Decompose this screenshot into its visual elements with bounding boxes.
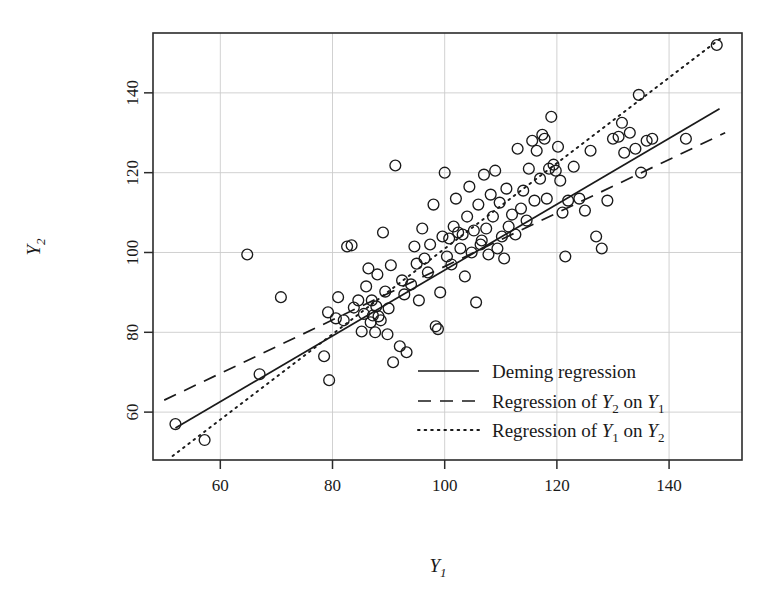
x-tick-label: 60 [212, 476, 229, 495]
data-point-circle [617, 117, 628, 128]
y-axis-title: Y2 [23, 238, 48, 256]
data-point-circle [485, 189, 496, 200]
data-point-circle [361, 281, 372, 292]
y-axis: 6080100120140 [124, 80, 154, 421]
data-point-circle [394, 341, 405, 352]
data-point-circle [435, 287, 446, 298]
scatter-plot-figure: 60801001201406080100120140Y1Y2Deming reg… [0, 0, 776, 604]
data-point-circle [471, 297, 482, 308]
legend: Deming regressionRegression of Y2 on Y1R… [418, 361, 664, 445]
data-point-circle [619, 147, 630, 158]
data-point-circle [413, 295, 424, 306]
data-point-circle [323, 307, 334, 318]
data-point-circle [630, 143, 641, 154]
data-point-circle [425, 239, 436, 250]
data-point-circle [451, 193, 462, 204]
x-tick-label: 140 [656, 476, 682, 495]
data-point-circle [378, 227, 389, 238]
legend-text-prefix: Regression of [492, 420, 602, 441]
x-axis-title: Y1 [429, 555, 446, 580]
data-point-circle [624, 127, 635, 138]
data-point-circle [490, 165, 501, 176]
data-point-circle [199, 435, 210, 446]
legend-label-deming: Deming regression [492, 361, 637, 382]
data-point-circle [553, 141, 564, 152]
legend-text-mid: on [619, 420, 648, 441]
regression-line-deming [175, 109, 719, 428]
data-point-circle [242, 249, 253, 260]
chart-canvas: 60801001201406080100120140Y1Y2Deming reg… [0, 0, 776, 604]
data-point-circle [382, 329, 393, 340]
data-point-circle [479, 169, 490, 180]
x-tick-label: 120 [544, 476, 570, 495]
data-point-circle [462, 211, 473, 222]
x-tick-label: 80 [324, 476, 341, 495]
y-tick-label: 100 [124, 240, 143, 265]
data-point-circle [527, 135, 538, 146]
y-tick-label: 140 [124, 80, 143, 106]
data-point-circle [375, 315, 386, 326]
data-point-circle [401, 347, 412, 358]
data-point-circle [711, 40, 722, 51]
data-point-circle [529, 195, 540, 206]
data-point-circle [464, 181, 475, 192]
data-point-circle [419, 253, 430, 264]
data-point-circle [473, 199, 484, 210]
data-point-circle [602, 195, 613, 206]
data-point-circle [390, 160, 401, 171]
data-point-circle [501, 183, 512, 194]
data-point-circle [568, 161, 579, 172]
data-point-circle [585, 145, 596, 156]
data-point-circle [417, 223, 428, 234]
data-point-circle [591, 231, 602, 242]
data-point-circle [333, 292, 344, 303]
axis-title-subscript: 2 [33, 238, 48, 245]
data-point-circle [319, 351, 330, 362]
data-point-circle [541, 193, 552, 204]
data-point-circle [681, 133, 692, 144]
data-point-circle [275, 292, 286, 303]
axis-title-subscript: 1 [440, 565, 447, 580]
legend-text-prefix: Regression of [492, 391, 602, 412]
data-point-circle [433, 324, 444, 335]
x-axis: 6080100120140 [212, 460, 682, 495]
data-point-circle [531, 145, 542, 156]
y-tick-label: 120 [124, 160, 143, 186]
y-tick-label: 80 [124, 324, 143, 341]
x-tick-label: 100 [432, 476, 458, 495]
data-point-circle [546, 111, 557, 122]
data-point-circle [338, 315, 349, 326]
data-point-circle [459, 271, 470, 282]
data-point-circle [365, 317, 376, 328]
data-point-circle [388, 357, 399, 368]
data-point-circle [580, 205, 591, 216]
data-point-circle [481, 223, 492, 234]
data-point-circle [633, 89, 644, 100]
data-point-circle [356, 326, 367, 337]
data-point-circle [430, 321, 441, 332]
data-point-circle [385, 260, 396, 271]
data-point-circle [428, 199, 439, 210]
legend-sub-2: 1 [658, 401, 665, 416]
data-point-circle [512, 143, 523, 154]
y-tick-label: 60 [124, 404, 143, 421]
data-point-circle [574, 193, 585, 204]
legend-sub-2: 2 [658, 430, 665, 445]
data-point-circle [372, 269, 383, 280]
data-point-circle [409, 241, 420, 252]
data-point-circle [516, 203, 527, 214]
data-point-circle [499, 253, 510, 264]
data-point-circle [539, 133, 550, 144]
legend-label-y1-on-y2: Regression of Y1 on Y2 [492, 420, 664, 445]
legend-text-mid: on [619, 391, 648, 412]
data-point-circle [437, 231, 448, 242]
